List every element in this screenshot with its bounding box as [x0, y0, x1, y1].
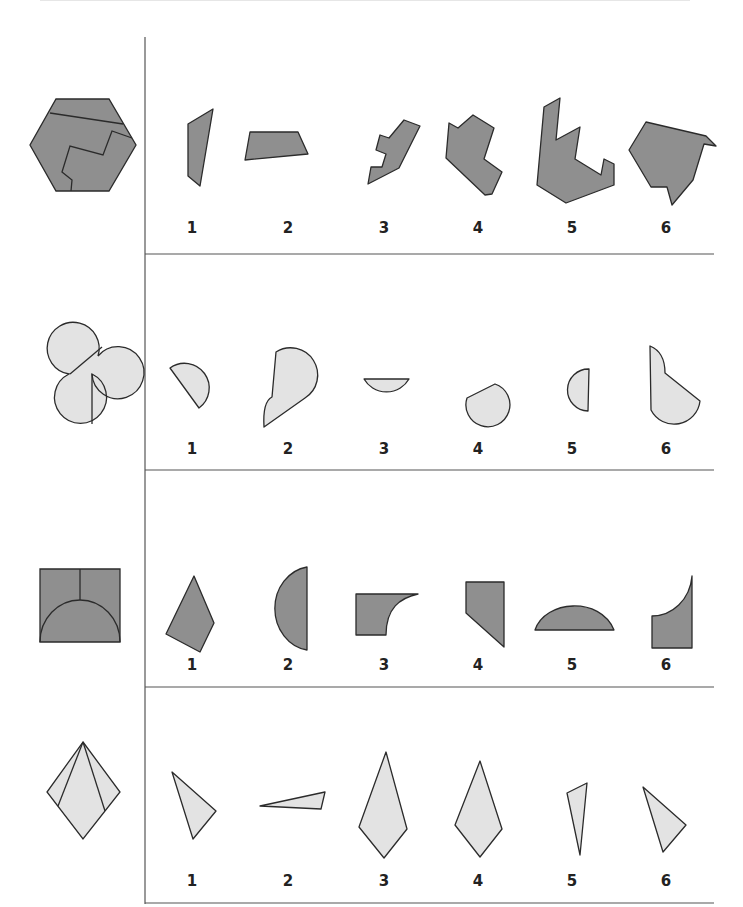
option-shape-1[interactable]: [170, 363, 209, 408]
option-label-3: 3: [369, 440, 399, 458]
option-shape-3[interactable]: [368, 120, 420, 184]
reference-figure: [30, 99, 136, 191]
option-shape-5[interactable]: [567, 783, 587, 855]
option-shape-2[interactable]: [264, 348, 318, 427]
option-shape-2[interactable]: [275, 567, 307, 650]
option-shape-4[interactable]: [455, 761, 502, 857]
option-shape-6[interactable]: [652, 576, 692, 648]
option-shape-4[interactable]: [466, 582, 504, 647]
reference-figure: [47, 742, 120, 839]
option-label-2: 2: [273, 656, 303, 674]
option-label-4: 4: [463, 219, 493, 237]
option-shape-6[interactable]: [629, 122, 716, 205]
option-label-4: 4: [463, 656, 493, 674]
option-label-2: 2: [273, 872, 303, 890]
option-shape-6[interactable]: [643, 787, 686, 852]
option-label-4: 4: [463, 440, 493, 458]
option-shape-2[interactable]: [260, 792, 325, 809]
option-shape-4[interactable]: [446, 115, 502, 195]
option-shape-1[interactable]: [166, 576, 214, 652]
option-shape-6[interactable]: [650, 346, 700, 424]
option-shape-2[interactable]: [245, 132, 308, 160]
option-label-4: 4: [463, 872, 493, 890]
option-label-6: 6: [651, 440, 681, 458]
option-label-6: 6: [651, 872, 681, 890]
option-label-5: 5: [557, 656, 587, 674]
option-label-6: 6: [651, 656, 681, 674]
option-shape-3[interactable]: [364, 379, 409, 392]
option-label-2: 2: [273, 440, 303, 458]
option-label-3: 3: [369, 656, 399, 674]
option-shape-5[interactable]: [567, 369, 589, 411]
option-shape-1[interactable]: [188, 109, 213, 186]
option-shape-4[interactable]: [466, 384, 510, 427]
option-label-1: 1: [177, 440, 207, 458]
reference-figure: [47, 322, 144, 423]
option-shape-5[interactable]: [537, 98, 614, 203]
option-label-1: 1: [177, 872, 207, 890]
option-label-5: 5: [557, 440, 587, 458]
option-label-1: 1: [177, 656, 207, 674]
option-label-2: 2: [273, 219, 303, 237]
option-label-3: 3: [369, 219, 399, 237]
option-shape-3[interactable]: [356, 594, 418, 635]
option-label-5: 5: [557, 872, 587, 890]
option-label-5: 5: [557, 219, 587, 237]
option-label-6: 6: [651, 219, 681, 237]
option-shape-1[interactable]: [172, 772, 216, 839]
option-label-3: 3: [369, 872, 399, 890]
option-shape-5[interactable]: [535, 606, 614, 630]
option-label-1: 1: [177, 219, 207, 237]
option-shape-3[interactable]: [359, 752, 407, 858]
